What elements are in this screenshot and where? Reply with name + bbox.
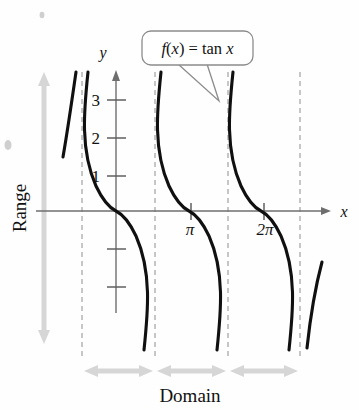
range-annotation: Range bbox=[9, 72, 50, 344]
domain-double-arrow bbox=[84, 365, 153, 377]
y-axis-label: y bbox=[97, 44, 107, 62]
paper-speck bbox=[40, 12, 45, 18]
tan-branch-partial-right bbox=[307, 262, 322, 348]
tangent-function-figure: Range bbox=[0, 0, 359, 410]
domain-double-arrow bbox=[157, 365, 226, 377]
y-axis-arrowhead bbox=[112, 70, 120, 81]
range-label: Range bbox=[9, 184, 30, 233]
function-callout: f(x) = tan x f(x) = tan x bbox=[0, 0, 253, 101]
domain-annotation: Domain bbox=[84, 365, 298, 406]
x-tick-label-pi: π bbox=[186, 220, 195, 239]
domain-label: Domain bbox=[159, 385, 221, 406]
y-tick-label-1: 1 bbox=[92, 167, 101, 186]
x-axis-label: x bbox=[339, 203, 347, 220]
range-double-arrow bbox=[38, 72, 50, 344]
domain-double-arrow bbox=[230, 365, 298, 377]
x-axis-arrowhead bbox=[321, 207, 331, 215]
axes-group bbox=[36, 70, 331, 313]
x-tick-label-2pi: 2π bbox=[256, 220, 274, 239]
paper-speck bbox=[5, 140, 12, 150]
y-tick-label-2: 2 bbox=[92, 129, 101, 148]
tan-branch-partial-left bbox=[63, 72, 76, 157]
figure-canvas: Range bbox=[0, 0, 359, 410]
callout-tail bbox=[178, 64, 219, 101]
y-tick-label-3: 3 bbox=[92, 91, 101, 110]
callout-label: f(x) = tan x bbox=[161, 39, 234, 58]
